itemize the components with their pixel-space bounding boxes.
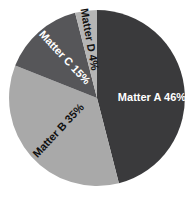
label-matter-a: Matter A 46%	[118, 91, 186, 103]
pie-chart-svg: Matter A 46% Matter B 35% Matter C 15% M…	[0, 0, 193, 197]
pie-chart: Matter A 46% Matter B 35% Matter C 15% M…	[0, 0, 193, 197]
